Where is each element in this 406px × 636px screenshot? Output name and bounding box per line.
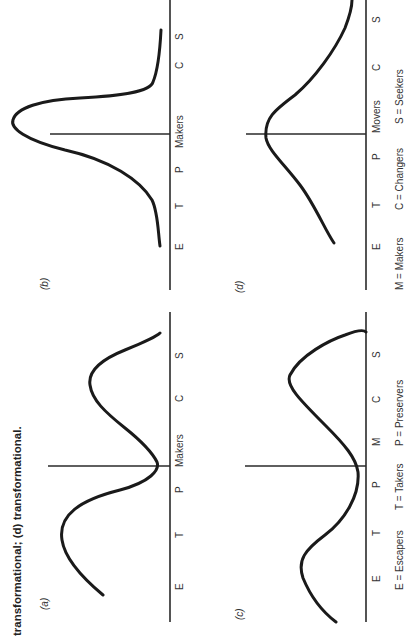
svg-text:T: T [371,530,382,536]
svg-text:T: T [174,203,185,209]
svg-text:P: P [371,481,382,488]
panel-label-b: (b) [39,278,50,290]
panel-b: (b) E T P Makers C S [13,0,185,290]
svg-text:P: P [174,166,185,173]
svg-text:E: E [174,583,185,590]
svg-text:Makers: Makers [174,115,185,148]
panel-c: (c) E T P M C S [234,312,382,622]
svg-text:M: M [371,438,382,446]
axis-labels-d: E T P Movers C S [371,16,382,250]
svg-text:E: E [371,575,382,582]
axis-labels-c: E T P M C S [371,351,382,582]
svg-text:S: S [371,16,382,23]
panel-label-d: (d) [234,281,245,293]
svg-text:C: C [174,62,185,69]
legend-preservers: P = Preservers [394,380,405,446]
svg-text:Movers: Movers [371,100,382,133]
svg-text:C: C [371,396,382,403]
svg-text:Makers: Makers [174,434,185,467]
svg-text:E: E [174,243,185,250]
legend: E = Escapers T = Takers P = Preservers M… [394,69,405,590]
legend-takers: T = Takers [394,463,405,510]
panel-a: (a) E T P Makers C S [39,312,185,622]
svg-text:S: S [371,351,382,358]
legend-escapers: E = Escapers [394,530,405,590]
svg-text:T: T [371,202,382,208]
svg-text:C: C [174,395,185,402]
svg-text:P: P [174,486,185,493]
distribution-curve-a [62,333,160,595]
svg-text:P: P [371,153,382,160]
figure-caption: transformational; (d) transformational. [11,426,23,636]
svg-text:S: S [174,352,185,359]
axis-labels-a: E T P Makers C S [174,352,185,590]
axis-labels-b: E T P Makers C S [174,33,185,250]
panel-label-c: (c) [234,608,245,620]
svg-text:E: E [371,243,382,250]
svg-text:C: C [371,64,382,71]
legend-changers: C = Changers [394,148,405,210]
legend-makers: M = Makers [394,237,405,290]
legend-seekers: S = Seekers [394,69,405,124]
svg-text:T: T [174,532,185,538]
distribution-curve-d [266,0,352,243]
distribution-curve-b [13,30,161,246]
panel-label-a: (a) [39,598,50,610]
svg-text:S: S [174,33,185,40]
distribution-curve-c [289,331,366,622]
panel-d: (d) E T P Movers C S [234,0,382,293]
figure: transformational; (d) transformational. … [0,0,406,636]
